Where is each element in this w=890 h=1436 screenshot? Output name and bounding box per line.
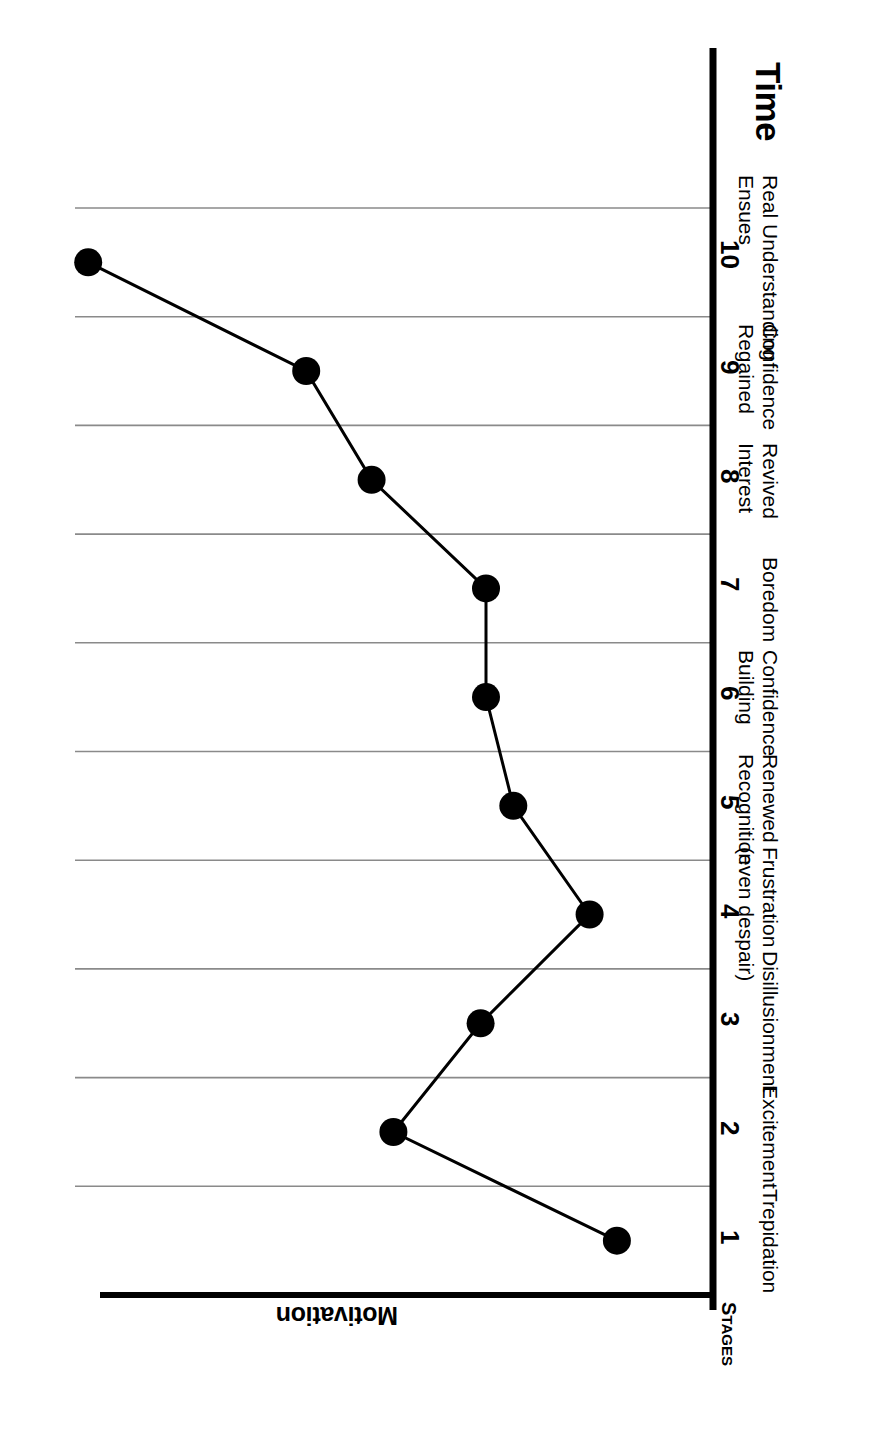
stage-name-1: Trepidation <box>758 1189 782 1293</box>
stages-title-first: S <box>718 1302 740 1315</box>
data-point-marker <box>472 683 500 711</box>
axes <box>100 48 716 1310</box>
gridlines <box>75 208 713 1186</box>
data-point-marker <box>472 574 500 602</box>
tick-label-2: 2 <box>714 1121 745 1135</box>
data-point-marker <box>358 466 386 494</box>
learning-curve-figure: Time Motivation STAGES 12345678910 Trepi… <box>0 0 890 1436</box>
data-point-marker <box>467 1009 495 1037</box>
data-point-marker <box>499 792 527 820</box>
stage-name-line2: Building <box>734 650 758 756</box>
stages-title-rest: TAGES <box>719 1315 736 1366</box>
stage-name-line1: Confidence <box>758 650 782 756</box>
stage-name-4: Frustration(even despair) <box>734 847 782 981</box>
stage-name-8: RevivedInterest <box>734 443 782 519</box>
stage-name-7: Boredom <box>758 557 782 642</box>
stage-name-line2: Interest <box>734 443 758 519</box>
motivation-axis-title: Motivation <box>276 1302 398 1330</box>
tick-label-3: 3 <box>714 1012 745 1026</box>
stage-name-line2: Recognition <box>734 754 758 865</box>
stage-name-line1: Frustration <box>758 847 782 981</box>
stage-name-line1: Excitement <box>758 1085 782 1189</box>
stage-name-line2: (even despair) <box>734 847 758 981</box>
stage-name-line2: Ensues <box>734 175 758 361</box>
data-point-marker <box>74 248 102 276</box>
stage-name-6: ConfidenceBuilding <box>734 650 782 756</box>
stage-name-line1: Revived <box>758 443 782 519</box>
data-point-marker <box>292 357 320 385</box>
stage-name-line1: Real Understanding <box>758 175 782 361</box>
stage-name-line1: Renewed <box>758 754 782 865</box>
stage-name-5: RenewedRecognition <box>734 754 782 865</box>
data-point-marker <box>603 1227 631 1255</box>
stage-name-2: Excitement <box>758 1085 782 1189</box>
data-point-marker <box>576 901 604 929</box>
data-point-marker <box>379 1118 407 1146</box>
stage-name-line1: Boredom <box>758 557 782 642</box>
tick-label-7: 7 <box>714 577 745 591</box>
stage-name-line1: Trepidation <box>758 1189 782 1293</box>
stages-axis-title: STAGES <box>718 1302 740 1366</box>
tick-label-1: 1 <box>714 1230 745 1244</box>
time-axis-title: Time <box>749 62 788 141</box>
stage-name-10: Real UnderstandingEnsues <box>734 175 782 361</box>
